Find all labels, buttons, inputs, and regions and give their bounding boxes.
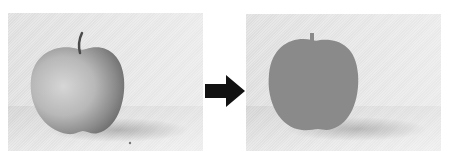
segmented-apple-image	[246, 14, 441, 151]
original-apple-image	[8, 13, 203, 151]
apple-photo-icon	[8, 13, 203, 151]
arrow-right-icon	[203, 74, 247, 108]
apple-silhouette-icon	[246, 14, 441, 151]
